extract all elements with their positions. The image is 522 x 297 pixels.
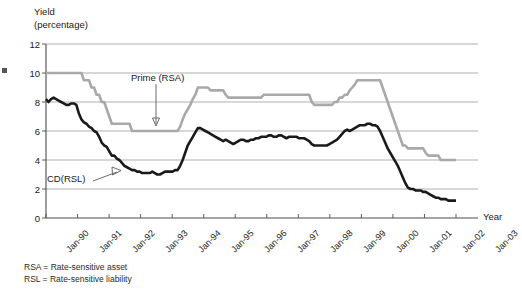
gridlines bbox=[46, 44, 478, 189]
footnote-rsa: RSA = Rate-sensitive asset bbox=[24, 262, 132, 274]
leader-line-cd bbox=[93, 167, 121, 181]
leader-line-prime bbox=[153, 84, 160, 126]
footnotes: RSA = Rate-sensitive asset RSL = Rate-se… bbox=[24, 262, 132, 285]
chart-figure: Yield (percentage) Year 12 10 8 6 4 2 0 … bbox=[0, 0, 522, 297]
footnote-rsl: RSL = Rate-sensitive liability bbox=[24, 274, 132, 286]
plot-area bbox=[0, 0, 522, 297]
